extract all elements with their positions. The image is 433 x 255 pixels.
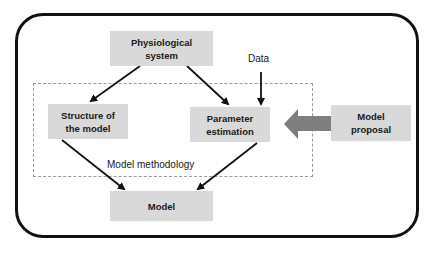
label-model-methodology: Model methodology <box>107 159 194 170</box>
arrow-physio-to-parameter <box>187 66 228 104</box>
diagram-canvas: Physiological system Structure of the mo… <box>0 0 433 255</box>
arrow-physio-to-structure <box>91 66 140 101</box>
node-physiological-system: Physiological system <box>110 31 213 66</box>
node-parameter-estimation: Parameter estimation <box>190 107 270 142</box>
node-structure-of-model: Structure of the model <box>48 104 128 139</box>
label-data: Data <box>248 53 269 64</box>
big-arrow-proposal-to-parameter <box>284 109 338 139</box>
node-model: Model <box>110 191 213 221</box>
arrow-parameter-to-model <box>198 143 257 189</box>
node-model-proposal: Model proposal <box>331 105 411 141</box>
